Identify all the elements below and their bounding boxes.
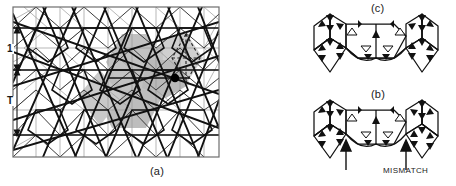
arrow-up-solid (410, 141, 418, 148)
arrow-open (347, 28, 357, 35)
arrow-down-solid (418, 15, 426, 22)
tiling-body (13, 7, 219, 157)
panel-a-svg (0, 0, 232, 186)
arrow-up-solid (336, 139, 344, 146)
arrow-solid-bottom (364, 140, 372, 146)
panel-c-edges (314, 14, 438, 72)
arrow-down-solid (418, 39, 426, 46)
panel-a-tiling: 1 T (0, 0, 232, 186)
arrow-up-solid (408, 53, 416, 60)
arrow-up-solid-center (372, 30, 380, 38)
marked-vertex-dot (171, 74, 179, 82)
arrow-up-solid (426, 55, 434, 62)
arrow-solid-top (390, 106, 394, 114)
arrow-up-solid (318, 141, 326, 148)
dimension-label-long: T (6, 96, 14, 106)
arrow-up-solid (336, 53, 344, 60)
arrow-solid (336, 23, 344, 30)
arrow-down-solid (326, 125, 334, 132)
arrow-solid (426, 44, 434, 51)
arrow-down-solid (326, 101, 334, 108)
arrow-open (361, 46, 371, 52)
arrow-down-solid (418, 113, 426, 120)
arrow-solid (318, 130, 326, 137)
arrow-solid (426, 20, 434, 27)
arrow-solid (426, 132, 434, 139)
arrow-up-solid-center (372, 116, 380, 124)
figure-root: 1 T (0, 0, 456, 186)
arrow-down-solid (418, 101, 426, 108)
arrow-solid-top (358, 20, 362, 28)
caption-panel-b: (b) (371, 88, 385, 100)
caption-panel-c: (c) (371, 2, 384, 14)
arrow-solid-bottom (364, 54, 372, 60)
arrow-solid (408, 23, 416, 30)
arrow-open (383, 46, 393, 52)
arrow-down-solid (326, 15, 334, 22)
arrow-solid (410, 109, 418, 116)
caption-panel-a: (a) (150, 165, 164, 177)
arrow-down-solid (326, 111, 334, 118)
arrow-solid (426, 108, 434, 115)
arrow-down-solid (326, 39, 334, 46)
arrow-down-solid (418, 127, 426, 134)
arrow-up-solid (426, 143, 434, 150)
dimension-label-short: 1 (6, 44, 14, 54)
arrow-open (383, 132, 393, 138)
arrow-down-solid (326, 25, 334, 32)
mismatch-label: MISMATCH (383, 166, 428, 175)
arrow-solid (318, 106, 326, 113)
panel-b-mismatched-cluster (296, 86, 456, 186)
arrow-solid (318, 20, 326, 27)
arrow-open (395, 28, 405, 35)
arrow-open (361, 132, 371, 138)
arrow-open (395, 114, 405, 121)
arrow-solid-bottom (382, 54, 390, 60)
arrow-solid (336, 109, 344, 116)
arrow-solid (318, 44, 326, 51)
arrow-down-solid (418, 25, 426, 32)
panel-b-svg (296, 86, 456, 186)
arrow-solid-top (390, 20, 394, 28)
arrow-solid-top (358, 106, 362, 114)
arrow-solid-bottom (382, 140, 390, 146)
arrow-open (347, 114, 357, 121)
arrow-up-solid (318, 55, 326, 62)
